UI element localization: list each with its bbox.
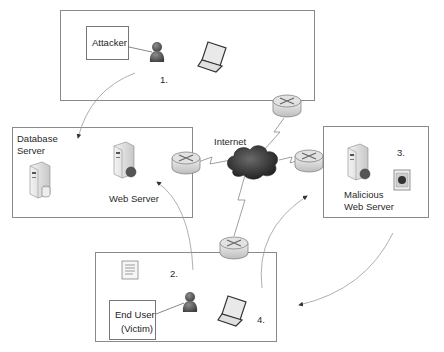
- router-icon: [295, 150, 323, 172]
- attacker-link-line: [129, 47, 152, 52]
- laptop-icon: [198, 42, 226, 72]
- document-icon: [122, 261, 138, 279]
- attack-diagram: Attacker End User (Victim) 1. Database S…: [0, 0, 444, 352]
- router-icon: [172, 152, 200, 174]
- link-left-router-cloud: [198, 157, 231, 164]
- web-server-icon: [348, 144, 370, 180]
- link-bottom-router-cloud: [234, 175, 245, 236]
- bug-badge-icon: [394, 170, 410, 190]
- database-server-icon: [30, 162, 50, 198]
- flow-arrow-3: [299, 233, 393, 305]
- web-server-icon: [114, 142, 136, 178]
- flow-arrow-2: [157, 182, 193, 270]
- victim-link-line: [156, 303, 184, 314]
- diagram-graphics: [0, 0, 444, 352]
- cloud-icon: [227, 146, 277, 179]
- laptop-icon: [218, 296, 246, 326]
- router-icon: [220, 237, 248, 259]
- flow-arrow-4: [261, 196, 307, 288]
- router-icon: [273, 95, 301, 117]
- link-top-router-cloud: [264, 118, 284, 150]
- flow-arrow-1: [78, 73, 135, 138]
- person-icon: [183, 292, 197, 312]
